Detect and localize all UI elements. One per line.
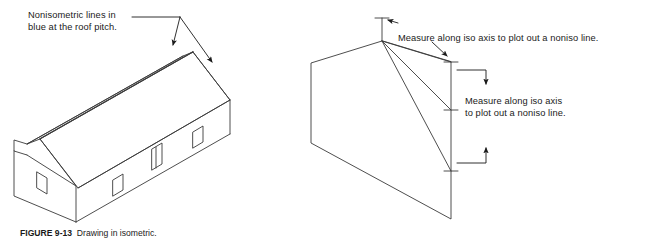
figure-caption-number: FIGURE 9-13	[20, 228, 72, 238]
label-measure-along-iso-axis-top: Measure along iso axis to plot out a non…	[398, 33, 598, 45]
roof-front-plane	[40, 52, 230, 188]
label-nonisometric-lines: Nonisometric lines in blue at the roof p…	[28, 10, 117, 33]
isometric-house-drawing	[14, 52, 230, 222]
left-eave-corner	[14, 140, 27, 155]
left-end-wall	[14, 151, 76, 222]
ridge-line	[40, 52, 193, 139]
leader-measure-right-upper	[457, 70, 486, 84]
door-front	[152, 143, 162, 170]
leader-measure-right-lower	[457, 148, 486, 163]
figure-caption: FIGURE 9-13 Drawing in isometric.	[20, 228, 157, 238]
construction-line-lower	[382, 41, 451, 171]
front-wall-top-edge	[78, 100, 230, 188]
leader-noniso-left	[173, 17, 180, 45]
window-front-right	[193, 126, 203, 148]
window-front-left	[113, 174, 123, 196]
label-measure-along-iso-axis-right: Measure along iso axis to plot out a non…	[465, 96, 566, 119]
leader-measure-top-stem	[388, 20, 398, 23]
left-gable-slope	[27, 155, 76, 186]
right-gable-slope	[193, 52, 230, 100]
figure-container: Nonisometric lines in blue at the roof p…	[0, 0, 661, 239]
figure-caption-text: Drawing in isometric.	[77, 228, 157, 238]
front-wall-bottom-edge	[76, 134, 230, 222]
construction-wedge-drawing	[311, 18, 458, 219]
window-gable-left	[37, 172, 47, 194]
roof-back-edge	[27, 56, 183, 144]
wedge-outline	[311, 41, 451, 219]
